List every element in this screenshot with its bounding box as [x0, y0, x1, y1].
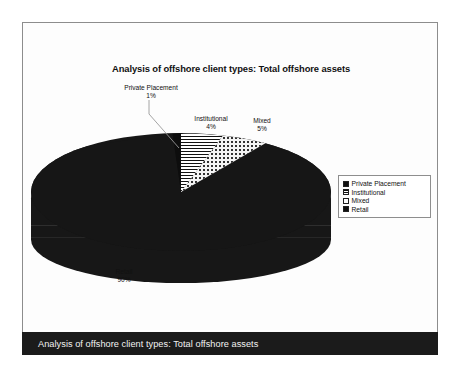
data-label-institutional: Institutional 4%	[180, 115, 242, 132]
legend-label-private-placement: Private Placement	[352, 180, 406, 187]
legend-label-mixed: Mixed	[352, 197, 370, 204]
legend-item-mixed[interactable]: Mixed	[343, 197, 427, 204]
legend-label-institutional: Institutional	[352, 189, 386, 196]
pie-chart	[31, 133, 331, 273]
legend-swatch-icon-retail	[343, 206, 349, 212]
legend-item-private-placement[interactable]: Private Placement	[343, 180, 427, 187]
legend-label-retail: Retail	[352, 206, 369, 213]
slide-caption-text: Analysis of offshore client types: Total…	[22, 339, 258, 349]
data-label-retail: Retail 90%	[101, 268, 147, 285]
pie-top-face	[31, 133, 331, 251]
data-label-mixed-name: Mixed	[253, 117, 271, 124]
slide-frame: Analysis of offshore client types: Total…	[22, 22, 438, 353]
legend-item-retail[interactable]: Retail	[343, 206, 427, 213]
chart-plot-area: Private Placement 1% Institutional 4% Mi…	[23, 23, 439, 328]
data-label-institutional-name: Institutional	[194, 115, 227, 122]
data-label-retail-name: Retail	[116, 268, 133, 275]
data-label-retail-value: 90%	[101, 276, 147, 284]
legend-item-institutional[interactable]: Institutional	[343, 189, 427, 196]
data-label-private-placement: Private Placement 1%	[109, 84, 193, 101]
data-label-private-placement-value: 1%	[109, 92, 193, 100]
legend-swatch-icon-institutional	[343, 189, 349, 195]
slide-page: Analysis of offshore client types: Total…	[0, 0, 461, 375]
data-label-mixed-value: 5%	[241, 125, 283, 133]
data-label-institutional-value: 4%	[180, 123, 242, 131]
data-label-private-placement-name: Private Placement	[124, 84, 178, 91]
chart-legend: Private Placement Institutional Mixed Re…	[338, 175, 431, 218]
legend-swatch-icon-mixed	[343, 198, 349, 204]
data-label-mixed: Mixed 5%	[241, 117, 283, 134]
slide-caption-bar: Analysis of offshore client types: Total…	[22, 332, 438, 355]
legend-swatch-icon-private-placement	[343, 181, 349, 187]
